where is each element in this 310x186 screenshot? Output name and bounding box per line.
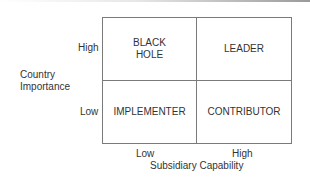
quadrant-contributor: CONTRIBUTOR: [197, 81, 291, 143]
quadrant-black-hole: BLACK HOLE: [103, 18, 196, 80]
y-axis-low-label: Low: [80, 106, 98, 118]
x-axis-high-label: High: [232, 148, 253, 160]
x-axis-title: Subsidiary Capability: [150, 160, 243, 172]
x-axis-low-label: Low: [136, 148, 154, 160]
y-axis-title-line2: Importance: [20, 81, 70, 93]
top-divider-line: [0, 0, 310, 2]
y-axis-title-line1: Country: [20, 69, 70, 81]
quadrant-implementer-label: IMPLEMENTER: [113, 106, 185, 118]
matrix-grid: BLACK HOLE LEADER IMPLEMENTER CONTRIBUTO…: [102, 17, 292, 144]
y-axis-title: Country Importance: [20, 69, 70, 93]
quadrant-contributor-label: CONTRIBUTOR: [207, 106, 280, 118]
quadrant-black-hole-line1: BLACK: [133, 37, 166, 49]
y-axis-high-label: High: [78, 42, 99, 54]
quadrant-leader: LEADER: [197, 18, 291, 80]
quadrant-implementer: IMPLEMENTER: [103, 81, 196, 143]
quadrant-black-hole-line2: HOLE: [133, 49, 166, 61]
quadrant-leader-label: LEADER: [224, 43, 264, 55]
